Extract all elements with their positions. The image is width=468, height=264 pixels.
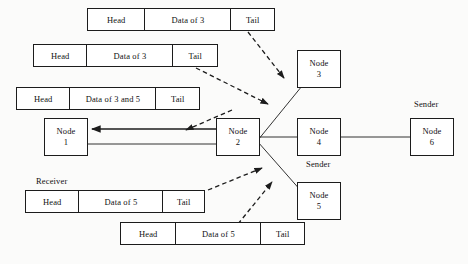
packet-cell: Head [17, 88, 70, 109]
packet-cell: Tail [156, 88, 199, 109]
arrow-packet-data3-to-node2-upper [248, 32, 284, 78]
packet-cell: Data of 3 [87, 45, 173, 66]
node-5: Node5 [297, 182, 341, 220]
packet-cell: Tail [163, 191, 204, 212]
node-number: 4 [317, 137, 321, 148]
node-label: Node [309, 126, 328, 137]
node-number: 6 [430, 137, 434, 148]
arrow-packet-data5-to-node2-upper [208, 168, 262, 190]
caption-sender-node4: Sender [306, 159, 331, 169]
arrow-packet-data5-to-node2-lower [238, 182, 272, 224]
node-number: 5 [317, 201, 321, 212]
packet-coded-data3and5: HeadData of 3 and 5Tail [16, 87, 200, 110]
node-label: Node [228, 126, 247, 137]
packet-cell: Tail [231, 9, 274, 30]
packet-top-data3: HeadData of 3Tail [87, 8, 275, 31]
packet-cell: Data of 5 [176, 223, 261, 244]
packet-cell: Tail [261, 223, 304, 244]
node-number: 1 [64, 137, 68, 148]
packet-cell: Data of 3 and 5 [70, 88, 156, 109]
node-1: Node1 [44, 118, 88, 156]
diagram-canvas: HeadData of 3TailHeadData of 3TailHeadDa… [0, 0, 468, 264]
link-node2-node5 [258, 142, 302, 192]
packet-cell: Data of 5 [79, 191, 163, 212]
caption-sender-node6: Sender [414, 99, 439, 109]
caption-receiver: Receiver [36, 176, 67, 186]
packet-cell: Head [26, 191, 79, 212]
link-node2-node3 [258, 86, 302, 140]
node-label: Node [309, 58, 328, 69]
packet-cell: Head [88, 9, 145, 30]
node-6: Node6 [410, 118, 454, 156]
packet-cell: Head [34, 45, 87, 66]
node-label: Node [422, 126, 441, 137]
node-3: Node3 [297, 50, 341, 88]
node-number: 2 [236, 137, 240, 148]
packet-cell: Head [121, 223, 176, 244]
node-label: Node [56, 126, 75, 137]
node-2: Node2 [216, 118, 260, 156]
node-4: Node4 [297, 118, 341, 156]
packet-second-data3: HeadData of 3Tail [33, 44, 218, 67]
node-label: Node [309, 190, 328, 201]
packet-bottom-data5: HeadData of 5Tail [120, 222, 305, 245]
node-number: 3 [317, 69, 321, 80]
packet-cell: Data of 3 [145, 9, 231, 30]
packet-cell: Tail [173, 45, 217, 66]
packet-receiver-data5: HeadData of 5Tail [25, 190, 205, 213]
arrow-packet-data3-to-node2-lower [196, 68, 268, 104]
